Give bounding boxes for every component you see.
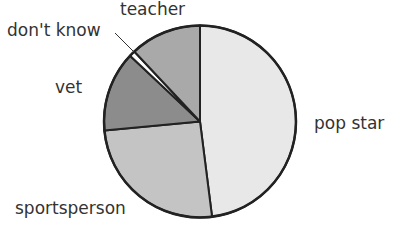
- label-vet: vet: [55, 79, 82, 96]
- pie-slices: [104, 26, 296, 218]
- label-dont-know: don't know: [7, 22, 101, 39]
- slice-pop-star: [200, 26, 296, 217]
- label-sportsperson: sportsperson: [15, 200, 126, 217]
- label-teacher: teacher: [120, 1, 185, 18]
- label-pop-star: pop star: [314, 115, 384, 132]
- dont-know-leader-line: [115, 33, 134, 52]
